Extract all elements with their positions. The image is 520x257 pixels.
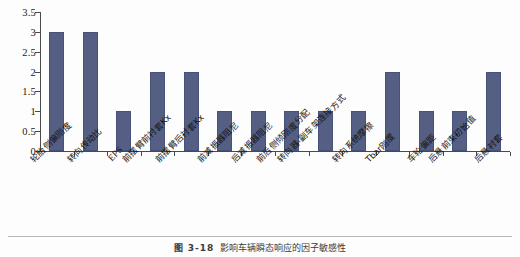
y-axis-tick-label: 2.5 (22, 46, 36, 57)
bar-series (40, 12, 510, 151)
y-axis-tick-labels: 00.511.522.533.5 (10, 8, 36, 154)
x-axis-category-labels: 轮胎侧偏刚度转向传动比EPS前摆臂前衬套Kx前摆臂后衬套Kx前减振器阻尼后减振器… (0, 152, 520, 230)
figure-caption-text: 影响车辆瞬态响应的因子敏感性 (220, 243, 346, 253)
y-axis-tick-label: 0.5 (22, 126, 36, 137)
figure-number: 图 3-18 (174, 243, 215, 253)
y-axis-tick-label: 3.5 (22, 7, 36, 18)
caption-divider (8, 236, 512, 237)
y-axis-tick-label: 1.5 (22, 86, 36, 97)
figure-caption: 图 3-18影响车辆瞬态响应的因子敏感性 (0, 241, 520, 254)
figure-container: 00.511.522.533.5 轮胎侧偏刚度转向传动比EPS前摆臂前衬套Kx前… (0, 0, 520, 257)
